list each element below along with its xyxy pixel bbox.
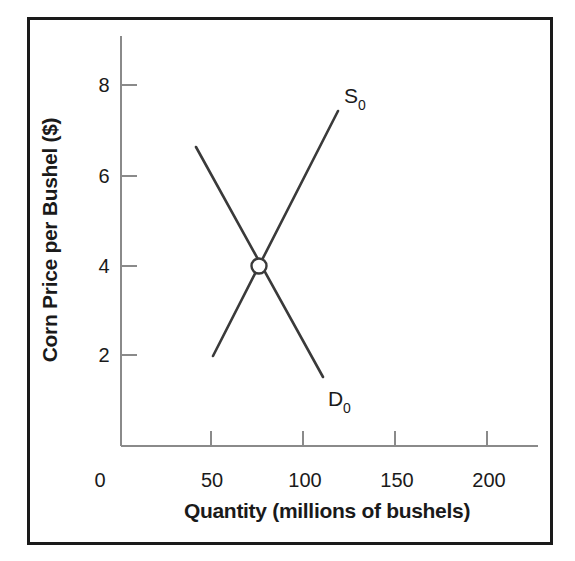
- x-axis-tick-labels: 0 50 100 150 200: [94, 469, 505, 491]
- x-axis-ticks: [211, 431, 487, 446]
- y-axis-ticks: [121, 85, 137, 355]
- figure-page: 8 6 4 2 0 50 100 150 200 S 0: [0, 0, 575, 561]
- supply-curve-s0: [213, 111, 338, 356]
- y-tick-label-2: 2: [98, 344, 109, 366]
- y-tick-label-6: 6: [98, 165, 109, 187]
- x-tick-label-150: 150: [380, 469, 413, 491]
- x-axis-title: Quantity (millions of bushels): [184, 499, 470, 522]
- y-tick-label-4: 4: [98, 255, 109, 277]
- y-tick-label-8: 8: [98, 74, 109, 96]
- x-tick-label-200: 200: [472, 469, 505, 491]
- x-tick-label-50: 50: [201, 469, 223, 491]
- equilibrium-marker-icon: [252, 259, 267, 274]
- demand-label-main: D: [328, 387, 343, 410]
- demand-label-subscript: 0: [343, 400, 351, 416]
- supply-curve-label: S 0: [344, 84, 366, 113]
- x-tick-label-100: 100: [288, 469, 321, 491]
- supply-label-subscript: 0: [358, 97, 366, 113]
- y-axis-tick-labels: 8 6 4 2: [98, 74, 109, 366]
- supply-label-main: S: [344, 84, 358, 107]
- demand-curve-label: D 0: [328, 387, 351, 416]
- supply-demand-chart: 8 6 4 2 0 50 100 150 200 S 0: [0, 0, 575, 561]
- x-tick-label-0: 0: [94, 469, 105, 491]
- y-axis-title: Corn Price per Bushel ($): [38, 118, 61, 363]
